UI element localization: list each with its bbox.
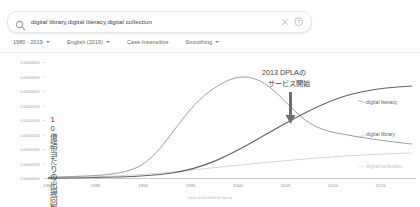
x-axis-ticks: 1980 1985 1990 1995 2000 2005 2010 2015 bbox=[43, 183, 386, 188]
question-circle-icon[interactable]: ? bbox=[292, 16, 305, 29]
y-tick-label: 0.0000050% bbox=[20, 163, 40, 167]
ngram-viewer-page: ? 1980 - 2019 English (2019) Case-Insens… bbox=[0, 0, 420, 207]
filter-bar: 1980 - 2019 English (2019) Case-Insensit… bbox=[13, 37, 236, 46]
filter-smoothing-label: Smoothing bbox=[186, 39, 213, 45]
x-tick-label: 2000 bbox=[233, 183, 244, 188]
filter-corpus-label: English (2019) bbox=[67, 39, 103, 45]
filter-corpus[interactable]: English (2019) bbox=[67, 39, 110, 45]
series-line-digital-literacy[interactable] bbox=[48, 86, 412, 178]
y-tick-label: 0.0000350% bbox=[20, 76, 40, 80]
filter-year-range-label: 1980 - 2019 bbox=[13, 39, 43, 45]
filter-smoothing[interactable]: Smoothing bbox=[186, 39, 220, 45]
series-label-digital-library[interactable]: digital library bbox=[366, 131, 396, 137]
y-tick-label: 0.0000400% bbox=[20, 61, 40, 65]
series-label-digital-collection[interactable]: digital collection bbox=[366, 163, 403, 169]
x-tick-label: 2015 bbox=[375, 183, 386, 188]
close-icon[interactable] bbox=[278, 16, 291, 29]
series-leader-line bbox=[358, 101, 365, 103]
x-tick-label: 2005 bbox=[280, 183, 291, 188]
y-tick-label: 0.0000100% bbox=[20, 148, 40, 152]
filter-case-insensitive[interactable]: Case-Insensitive bbox=[127, 39, 168, 45]
chevron-down-icon bbox=[215, 41, 219, 43]
x-tick-label: 2010 bbox=[328, 183, 339, 188]
filter-case-insensitive-label: Case-Insensitive bbox=[127, 39, 168, 45]
dpla-launch-annotation: 2013 DPLAの サービス開始 bbox=[262, 68, 310, 124]
ngram-chart[interactable]: 0.0000400% 0.0000350% 0.0000300% 0.00002… bbox=[0, 53, 420, 207]
chevron-down-icon bbox=[46, 41, 50, 43]
annotation-line-1: 2013 DPLAの bbox=[262, 68, 306, 77]
x-tick-label: 1985 bbox=[90, 183, 101, 188]
search-icon bbox=[15, 17, 26, 28]
x-tick-label: 1990 bbox=[138, 183, 149, 188]
annotation-line-2: サービス開始 bbox=[268, 79, 310, 88]
chart-svg[interactable]: 0.0000400% 0.0000350% 0.0000300% 0.00002… bbox=[0, 53, 420, 207]
axis-caption: (click on line/label for focus) bbox=[188, 196, 232, 200]
y-tick-label: 0.0000200% bbox=[20, 119, 40, 123]
y-tick-label: 0.0000000% bbox=[20, 177, 40, 181]
search-bar[interactable]: ? bbox=[7, 11, 312, 33]
chevron-down-icon bbox=[106, 41, 110, 43]
svg-text:?: ? bbox=[297, 19, 300, 25]
y-tick-label: 0.0000150% bbox=[20, 134, 40, 138]
series-label-digital-literacy[interactable]: digital literacy bbox=[366, 99, 398, 105]
y-axis-ticks: 0.0000400% 0.0000350% 0.0000300% 0.00002… bbox=[20, 61, 40, 181]
y-axis-label: 10億語当たりの出現回数 bbox=[44, 115, 56, 207]
x-tick-label: 1995 bbox=[185, 183, 196, 188]
series-line-digital-library[interactable] bbox=[48, 77, 412, 177]
series-line-digital-collection[interactable] bbox=[48, 153, 412, 178]
y-tick-label: 0.0000250% bbox=[20, 105, 40, 109]
y-tick-label: 0.0000300% bbox=[20, 90, 40, 94]
search-input[interactable] bbox=[31, 17, 278, 27]
filter-year-range[interactable]: 1980 - 2019 bbox=[13, 39, 50, 45]
